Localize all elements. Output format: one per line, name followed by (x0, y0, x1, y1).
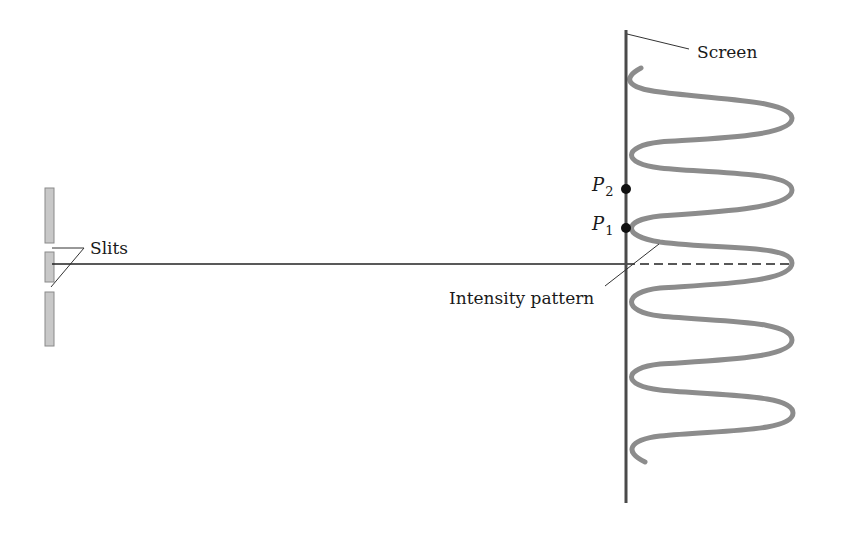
p2-letter: P (592, 174, 604, 195)
barrier-top (45, 188, 54, 243)
p1-subscript: 1 (605, 223, 613, 238)
slits-leader (51, 248, 84, 287)
point-p1-label: P1 (592, 215, 613, 237)
slit-barrier (45, 188, 54, 346)
slits-label: Slits (90, 240, 128, 257)
screen-leader (627, 34, 689, 49)
point-p2-label: P2 (592, 176, 613, 198)
diagram-canvas (0, 0, 852, 544)
barrier-middle (45, 252, 54, 282)
point-p2-dot (621, 184, 631, 194)
point-p1-dot (621, 223, 631, 233)
screen-label: Screen (697, 44, 757, 61)
intensity-leader (605, 244, 659, 286)
p1-letter: P (592, 213, 604, 234)
intensity-pattern-curve (630, 68, 793, 462)
barrier-bottom (45, 292, 54, 346)
intensity-pattern-label: Intensity pattern (449, 290, 594, 307)
p2-subscript: 2 (605, 184, 613, 199)
